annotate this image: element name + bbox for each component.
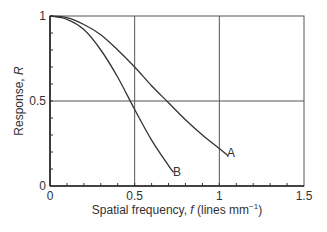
curve-b: [50, 16, 174, 172]
y-tick-label: 1: [39, 9, 46, 23]
y-axis-title: Response, R: [12, 66, 26, 136]
x-tick-label: 1.5: [296, 189, 313, 203]
y-tick-label: 0.5: [29, 94, 46, 108]
y-tick-label: 0: [39, 179, 46, 193]
x-axis-title: Spatial frequency, f (lines mm−1): [92, 202, 262, 217]
chart: 00.511.500.51 A B Spatial frequency, f (…: [0, 0, 327, 232]
curve-a-label: A: [227, 146, 235, 160]
curve-a: [50, 16, 228, 155]
curve-b-label: B: [173, 165, 181, 179]
curves: [50, 16, 228, 172]
grid-lines: [50, 16, 304, 186]
x-tick-label: 0: [47, 189, 54, 203]
x-tick-label: 1: [216, 189, 223, 203]
x-tick-label: 0.5: [126, 189, 143, 203]
